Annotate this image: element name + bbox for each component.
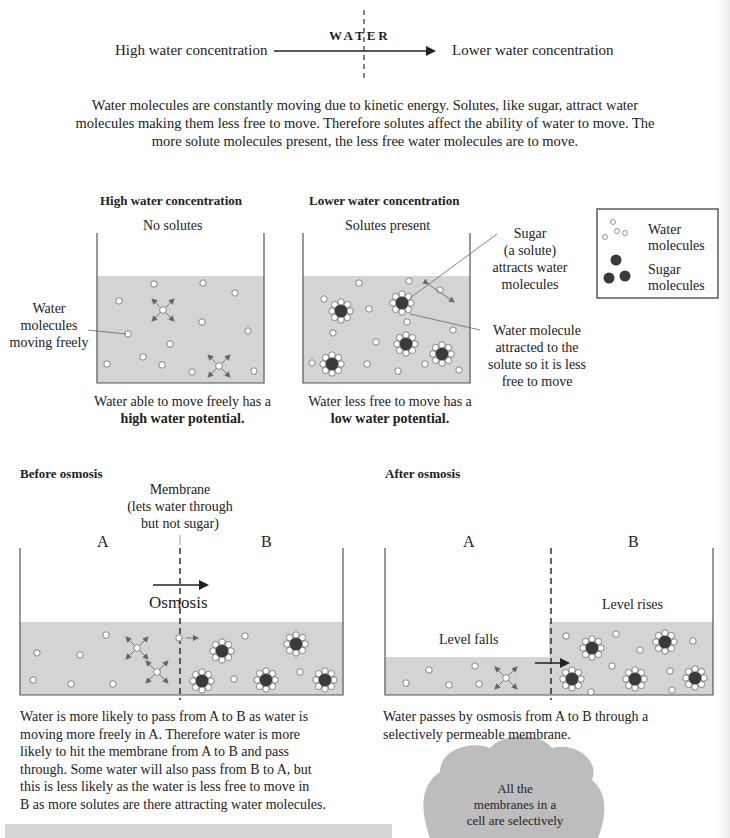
cloud-note-line: cell are selectively — [440, 813, 590, 829]
cloud-note-line: All the — [440, 781, 590, 797]
after-side-b-label: B — [628, 533, 639, 551]
description-line: Water is more likely to pass from A to B… — [20, 708, 326, 726]
beaker-high-title: High water concentration — [100, 193, 242, 209]
level-rises-label: Level rises — [602, 597, 663, 613]
before-osmosis-title: Before osmosis — [20, 466, 102, 482]
annotation-line: Water molecule — [477, 322, 597, 339]
intro-line-3: more solute molecules present, the less … — [0, 132, 730, 150]
caption-emphasis: low water potential. — [285, 410, 495, 427]
annotation-line: Sugar — [480, 225, 580, 242]
membrane-label: Membrane (lets water through but not sug… — [110, 481, 250, 532]
description-line: Water passes by osmosis from A to B thro… — [383, 708, 648, 726]
membrane-label-line: but not sugar) — [110, 515, 250, 532]
level-falls-label: Level falls — [439, 632, 498, 648]
legend-sugar-label: Sugar molecules — [648, 262, 705, 294]
sugar-annotation: Sugar (a solute) attracts water molecule… — [480, 225, 580, 293]
beaker-low-caption: Water less free to move has a low water … — [285, 393, 495, 427]
before-side-a-label: A — [97, 533, 109, 551]
after-osmosis-title: After osmosis — [385, 466, 460, 482]
beaker-high-water — [88, 233, 264, 383]
note-box — [5, 824, 392, 838]
annotation-line: molecules — [4, 317, 94, 334]
description-line: likely to hit the membrane from A to B a… — [20, 743, 326, 761]
osmosis-arrow-label: Osmosis — [149, 593, 208, 613]
legend-label-line: molecules — [648, 238, 705, 254]
beaker-before-osmosis — [20, 535, 343, 700]
annotation-line: Water — [4, 300, 94, 317]
annotation-line: solute so it is less — [477, 356, 597, 373]
membrane-label-line: (lets water through — [110, 498, 250, 515]
description-line: B as more solutes are there attracting w… — [20, 796, 326, 814]
annotation-line: molecules — [480, 276, 580, 293]
caption-line: Water less free to move has a — [285, 393, 495, 410]
legend-label-line: molecules — [648, 278, 705, 294]
attracted-water-annotation: Water molecule attracted to the solute s… — [477, 322, 597, 390]
before-osmosis-description: Water is more likely to pass from A to B… — [20, 708, 326, 813]
annotation-line: attracts water — [480, 259, 580, 276]
annotation-line: attracted to the — [477, 339, 597, 356]
intro-line-1: Water molecules are constantly moving du… — [0, 96, 730, 114]
membrane-label-line: Membrane — [110, 481, 250, 498]
after-side-a-label: A — [463, 533, 475, 551]
description-line: moving more freely in A. Therefore water… — [20, 726, 326, 744]
intro-paragraph: Water molecules are constantly moving du… — [0, 96, 730, 150]
high-concentration-label: High water concentration — [115, 42, 267, 59]
description-line: selectively permeable membrane. — [383, 726, 648, 744]
beaker-high-caption: Water able to move freely has a high wat… — [60, 393, 305, 427]
cloud-note: All the membranes in a cell are selectiv… — [440, 781, 590, 829]
intro-line-2: molecules making them less free to move.… — [0, 114, 730, 132]
before-side-b-label: B — [261, 533, 272, 551]
beaker-after-osmosis — [385, 548, 713, 700]
caption-line: Water able to move freely has a — [60, 393, 305, 410]
legend-label-line: Sugar — [648, 262, 705, 278]
header-arrow — [274, 10, 434, 80]
description-line: through. Some water will also pass from … — [20, 761, 326, 779]
water-molecules-annotation: Water molecules moving freely — [4, 300, 94, 351]
after-osmosis-description: Water passes by osmosis from A to B thro… — [383, 708, 648, 743]
beaker-low-subtitle: Solutes present — [345, 218, 430, 234]
legend-label-line: Water — [648, 222, 705, 238]
annotation-line: free to move — [477, 373, 597, 390]
caption-emphasis: high water potential. — [60, 410, 305, 427]
annotation-line: (a solute) — [480, 242, 580, 259]
beaker-low-title: Lower water concentration — [309, 193, 459, 209]
water-label: WATER — [329, 28, 391, 44]
beaker-low-water — [303, 233, 497, 383]
description-line: this is less likely as the water is less… — [20, 778, 326, 796]
legend-water-label: Water molecules — [648, 222, 705, 254]
cloud-note-line: membranes in a — [440, 797, 590, 813]
annotation-line: moving freely — [4, 334, 94, 351]
beaker-high-subtitle: No solutes — [143, 218, 203, 234]
lower-concentration-label: Lower water concentration — [452, 42, 614, 59]
